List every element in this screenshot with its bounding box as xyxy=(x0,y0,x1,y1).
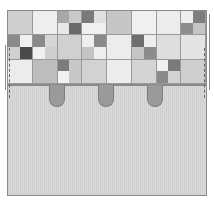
patch-cell xyxy=(157,60,182,84)
patch-quadrant xyxy=(82,35,94,47)
patch-cell xyxy=(58,60,83,84)
patch-quadrant xyxy=(144,35,156,47)
patch-quadrant xyxy=(33,35,45,47)
patch-quadrant xyxy=(69,60,81,72)
patch-cell xyxy=(58,11,83,35)
hanging-tab xyxy=(49,85,65,107)
patch-cell xyxy=(107,35,132,59)
patch-quadrant xyxy=(82,23,94,35)
patch-quadrant xyxy=(94,11,106,23)
patch-cell xyxy=(58,35,83,59)
patch-cell xyxy=(8,60,33,84)
patch-cell xyxy=(107,11,132,35)
fold-line-left xyxy=(9,48,10,98)
patch-cell xyxy=(33,35,58,59)
patch-quadrant xyxy=(20,47,32,59)
patch-quadrant xyxy=(168,60,180,72)
patch-cell xyxy=(107,60,132,84)
patch-quadrant xyxy=(58,11,70,23)
patch-cell xyxy=(132,11,157,35)
patch-cell xyxy=(181,11,206,35)
patch-cell xyxy=(157,11,182,35)
patch-cell xyxy=(157,35,182,59)
patch-quadrant xyxy=(181,23,193,35)
patch-quadrant xyxy=(45,35,57,47)
quilt-panel xyxy=(7,10,207,196)
patch-quadrant xyxy=(8,35,20,47)
patch-quadrant xyxy=(45,47,57,59)
patch-cell xyxy=(33,11,58,35)
patch-quadrant xyxy=(193,23,205,35)
patch-quadrant xyxy=(168,71,180,83)
patchwork-grid xyxy=(7,10,207,85)
patch-quadrant xyxy=(157,71,169,83)
patch-quadrant xyxy=(82,47,94,59)
patch-quadrant xyxy=(69,11,81,23)
patch-quadrant xyxy=(94,35,106,47)
patch-quadrant xyxy=(82,11,94,23)
patch-cell xyxy=(181,35,206,59)
patch-quadrant xyxy=(58,71,70,83)
patch-cell xyxy=(33,60,58,84)
patch-cell xyxy=(132,60,157,84)
patch-cell xyxy=(82,11,107,35)
hanging-tab xyxy=(98,85,114,107)
patch-quadrant xyxy=(33,47,45,59)
patch-quadrant xyxy=(58,23,70,35)
patch-quadrant xyxy=(132,47,144,59)
patch-quadrant xyxy=(94,47,106,59)
patch-cell xyxy=(82,35,107,59)
patch-quadrant xyxy=(69,23,81,35)
patch-quadrant xyxy=(94,23,106,35)
patch-cell xyxy=(8,11,33,35)
patch-quadrant xyxy=(181,11,193,23)
patch-quadrant xyxy=(144,47,156,59)
patch-quadrant xyxy=(157,60,169,72)
patch-cell xyxy=(8,35,33,59)
patch-quadrant xyxy=(20,35,32,47)
hanging-tab xyxy=(147,85,163,107)
right-edge-line xyxy=(209,14,210,90)
left-edge-line xyxy=(5,45,6,90)
patch-cell xyxy=(82,60,107,84)
patch-quadrant xyxy=(132,35,144,47)
patch-quadrant xyxy=(69,71,81,83)
fold-line-right xyxy=(204,48,205,98)
patch-quadrant xyxy=(193,11,205,23)
patch-cell xyxy=(132,35,157,59)
patch-quadrant xyxy=(58,60,70,72)
patch-cell xyxy=(181,60,206,84)
